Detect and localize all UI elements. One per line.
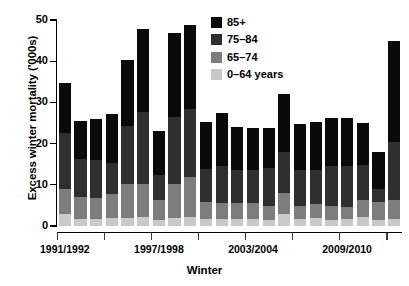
bar-1998-1999 — [168, 33, 180, 226]
bar-segment-75-84 — [121, 126, 133, 185]
y-tick-mark — [50, 19, 57, 20]
bar-segment-0-64-years — [278, 214, 290, 226]
bar-2002-2003 — [231, 127, 243, 226]
bar-segment-0-64-years — [231, 219, 243, 226]
legend-label: 0–64 years — [227, 69, 283, 80]
y-tick-mark — [50, 184, 57, 185]
bar-1993-1994 — [90, 119, 102, 226]
legend-label: 85+ — [227, 17, 246, 28]
bar-segment-0-64-years — [357, 217, 369, 226]
bar-segment-85- — [153, 131, 165, 175]
bar-segment-85- — [74, 121, 86, 160]
bar-segment-85- — [357, 123, 369, 165]
bar-segment-85- — [184, 25, 196, 109]
bar-segment-85- — [137, 29, 149, 112]
bar-segment-0-64-years — [137, 217, 149, 226]
bar-2012-2013 — [388, 41, 400, 226]
x-tick-mark — [151, 233, 152, 240]
x-axis-title: Winter — [0, 264, 409, 276]
bar-1997-1998 — [153, 131, 165, 226]
bar-segment-65-74 — [231, 203, 243, 219]
bar-segment-65-74 — [357, 200, 369, 217]
bar-segment-75-84 — [278, 152, 290, 193]
bar-segment-75-84 — [106, 163, 118, 194]
bar-segment-75-84 — [325, 166, 337, 206]
legend: 85+75–8465–740–64 years — [211, 14, 321, 84]
bar-segment-75-84 — [59, 133, 71, 189]
y-tick-label: 0 — [6, 220, 48, 231]
bar-segment-0-64-years — [263, 220, 275, 226]
bar-2011-2012 — [372, 152, 384, 226]
bar-2001-2002 — [216, 113, 228, 226]
bar-segment-65-74 — [184, 177, 196, 217]
bar-segment-75-84 — [90, 160, 102, 198]
y-tick-label: 10 — [6, 179, 48, 190]
x-tick-mark — [386, 233, 387, 240]
bar-segment-75-84 — [168, 117, 180, 183]
bar-segment-0-64-years — [325, 220, 337, 226]
bar-segment-65-74 — [388, 200, 400, 219]
bar-segment-85- — [106, 114, 118, 163]
y-tick-label: 40 — [6, 55, 48, 66]
bar-segment-85- — [341, 118, 353, 167]
bar-segment-75-84 — [310, 170, 322, 204]
bar-1994-1995 — [106, 114, 118, 226]
bar-segment-0-64-years — [184, 217, 196, 226]
bar-segment-0-64-years — [74, 219, 86, 226]
bar-segment-85- — [263, 128, 275, 169]
bar-2003-2004 — [247, 128, 259, 226]
excess-winter-mortality-chart: Excess winter mortality ('000s) 01020304… — [0, 0, 409, 286]
legend-swatch-icon — [211, 17, 222, 28]
bar-segment-0-64-years — [388, 219, 400, 226]
bar-segment-75-84 — [263, 168, 275, 205]
bar-segment-65-74 — [200, 202, 212, 219]
x-tick-mark — [57, 233, 58, 240]
bar-segment-85- — [168, 33, 180, 117]
bar-segment-0-64-years — [294, 219, 306, 226]
legend-item: 65–74 — [211, 49, 321, 65]
x-tick-mark — [245, 233, 246, 240]
y-tick-mark — [50, 102, 57, 103]
bar-segment-75-84 — [357, 165, 369, 200]
bar-segment-85- — [388, 41, 400, 142]
x-tick-mark — [104, 233, 105, 240]
bar-segment-85- — [231, 127, 243, 170]
bar-segment-0-64-years — [153, 220, 165, 226]
bar-segment-65-74 — [278, 193, 290, 213]
bar-segment-65-74 — [74, 197, 86, 219]
bar-1996-1997 — [137, 29, 149, 226]
x-tick-mark — [339, 233, 340, 240]
legend-swatch-icon — [211, 34, 222, 45]
bar-segment-65-74 — [310, 204, 322, 218]
y-tick-label: 50 — [6, 14, 48, 25]
bar-segment-65-74 — [294, 206, 306, 220]
bar-segment-85- — [278, 94, 290, 152]
bar-segment-85- — [59, 83, 71, 133]
bar-1999-2000 — [184, 25, 196, 226]
legend-item: 0–64 years — [211, 67, 321, 83]
bar-segment-0-64-years — [106, 218, 118, 226]
bar-segment-85- — [216, 113, 228, 167]
bar-segment-65-74 — [263, 206, 275, 220]
x-tick-label: 1997/1998 — [125, 243, 193, 255]
bar-segment-65-74 — [90, 198, 102, 218]
bar-segment-0-64-years — [168, 218, 180, 226]
y-tick-mark — [50, 225, 57, 226]
bar-segment-85- — [247, 128, 259, 170]
legend-label: 75–84 — [227, 34, 258, 45]
bar-segment-75-84 — [137, 112, 149, 183]
bar-segment-65-74 — [121, 184, 133, 217]
bar-segment-65-74 — [372, 202, 384, 220]
bar-segment-0-64-years — [90, 219, 102, 226]
x-tick-mark — [198, 233, 199, 240]
legend-item: 75–84 — [211, 32, 321, 48]
legend-swatch-icon — [211, 52, 222, 63]
bar-segment-85- — [121, 60, 133, 126]
bar-segment-85- — [310, 122, 322, 170]
bar-2008-2009 — [325, 118, 337, 226]
bar-segment-75-84 — [184, 109, 196, 177]
bar-segment-0-64-years — [59, 214, 71, 226]
bar-segment-85- — [200, 122, 212, 169]
bar-segment-0-64-years — [341, 219, 353, 226]
bar-segment-65-74 — [153, 200, 165, 219]
